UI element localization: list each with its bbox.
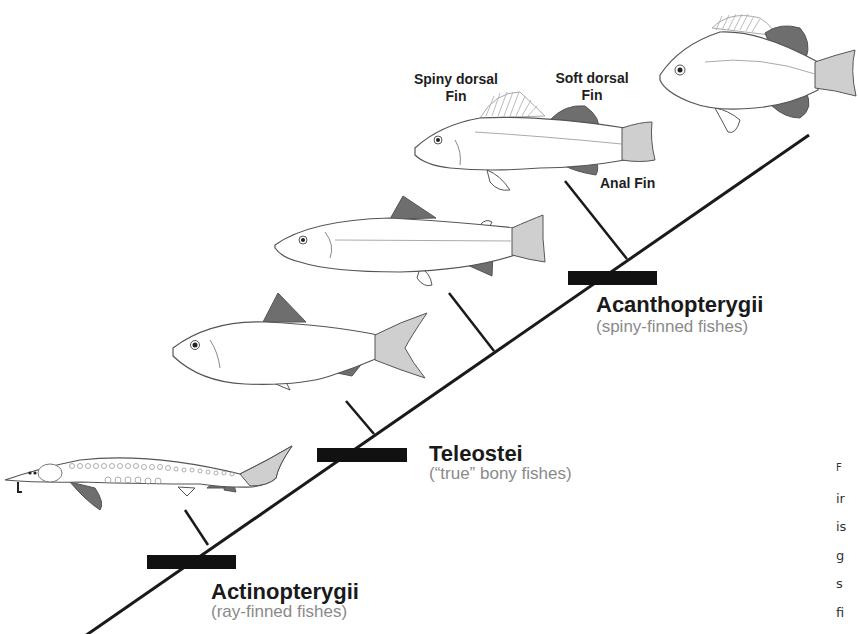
label-soft-dorsal-fin: Soft dorsal Fin (540, 70, 644, 104)
figure-caption-fragment: F ir is g s fi (836, 462, 858, 633)
caption-line-4: g (836, 548, 858, 577)
bar-acanthopterygii (568, 271, 657, 285)
clade-name-acanthopterygii: Acanthopterygii (596, 294, 763, 316)
bar-teleostei (317, 448, 407, 462)
branch-sturgeon (185, 510, 208, 545)
clade-subtitle-acanthopterygii: (spiny-finned fishes) (596, 318, 748, 336)
branch-herring (346, 401, 374, 434)
clade-subtitle-actinopterygii: (ray-finned fishes) (211, 603, 347, 621)
caption-line-2: ir (836, 491, 858, 520)
label-anal-fin: Anal Fin (600, 175, 655, 192)
caption-line-1: F (836, 462, 858, 491)
spiny-dorsal-line1: Spiny dorsal (402, 71, 510, 88)
branch-perch (565, 181, 627, 259)
clade-name-actinopterygii: Actinopterygii (211, 581, 359, 603)
caption-line-3: is (836, 519, 858, 548)
fish-sunfish (660, 14, 856, 133)
branch-trout (449, 293, 494, 351)
caption-line-6: fi (836, 605, 858, 634)
fish-trout (275, 196, 545, 286)
soft-dorsal-line2: Fin (540, 87, 644, 104)
fish-herring (173, 293, 427, 390)
clade-subtitle-teleostei: (“true” bony fishes) (429, 465, 572, 483)
spiny-dorsal-line2: Fin (402, 88, 510, 105)
bar-actinopterygii (147, 555, 236, 569)
fish-sturgeon (5, 446, 292, 510)
clade-name-teleostei: Teleostei (429, 443, 523, 465)
caption-line-5: s (836, 576, 858, 605)
soft-dorsal-line1: Soft dorsal (540, 70, 644, 87)
label-spiny-dorsal-fin: Spiny dorsal Fin (402, 71, 510, 105)
